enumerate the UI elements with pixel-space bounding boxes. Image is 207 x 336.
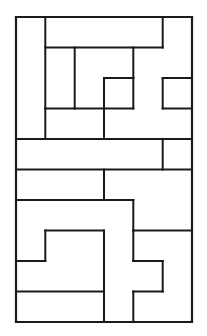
lower-left-hook-upper <box>45 109 74 140</box>
dissection-puzzle-diagram <box>0 0 207 336</box>
top-left-vertical-bar <box>16 17 45 139</box>
lower-left-wide-bar <box>16 170 104 201</box>
upper-right-corner-block <box>163 17 192 78</box>
puzzle-figure <box>0 0 207 336</box>
full-width-horizontal-band <box>16 139 163 170</box>
band-right-cap <box>163 139 192 170</box>
